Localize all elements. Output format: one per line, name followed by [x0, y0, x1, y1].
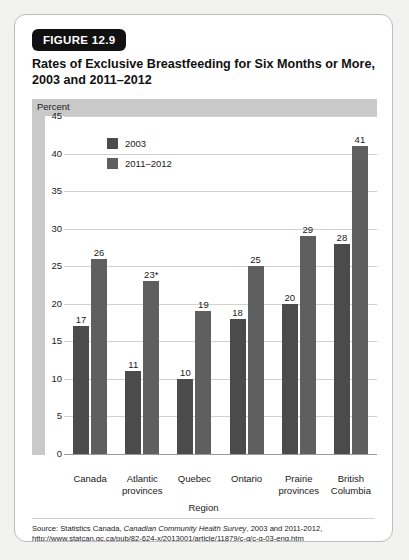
bar-value-label: 25 — [240, 254, 272, 265]
bar-value-label: 29 — [292, 224, 324, 235]
y-axis-tick-label: 15 — [45, 335, 62, 346]
percent-band: Percent — [32, 99, 377, 116]
legend-swatch — [107, 138, 118, 149]
y-axis-tick-label: 10 — [45, 373, 62, 384]
gridline — [64, 191, 377, 192]
gridline — [64, 416, 377, 417]
gridline — [64, 379, 377, 380]
gridline — [64, 304, 377, 305]
gridline — [64, 229, 377, 230]
x-axis-line — [64, 454, 377, 455]
bar — [300, 236, 316, 454]
y-axis-tick-label: 5 — [45, 410, 62, 421]
bar — [282, 304, 298, 454]
source-publication: Canadian Community Health Survey — [124, 524, 247, 533]
figure-card: FIGURE 12.9 Rates of Exclusive Breastfee… — [14, 14, 393, 542]
bar-value-label: 23* — [135, 269, 167, 280]
source-url: http://www.statcan.gc.ca/pub/82-624-x/20… — [32, 534, 304, 542]
left-margin-strip — [32, 116, 45, 455]
y-axis-tick-label: 20 — [45, 298, 62, 309]
x-axis-title: Region — [15, 502, 392, 513]
bar-value-label: 41 — [344, 134, 376, 145]
bar — [352, 146, 368, 454]
bar — [334, 244, 350, 454]
x-axis-category-labels: CanadaAtlanticprovincesQuebecOntarioPrai… — [47, 473, 377, 499]
gridline — [64, 266, 377, 267]
bar-chart: Percent 051015202530354045 17261123*1019… — [32, 99, 377, 469]
bar — [73, 326, 89, 454]
x-axis-category-label: BritishColumbia — [316, 473, 386, 496]
bar — [177, 379, 193, 454]
bar — [195, 311, 211, 454]
bar-value-label: 19 — [187, 299, 219, 310]
bar — [91, 259, 107, 454]
bar — [230, 319, 246, 454]
y-axis-tick-label: 40 — [45, 148, 62, 159]
legend-item: 2003 — [107, 138, 172, 149]
divider — [32, 518, 375, 519]
gridline — [64, 116, 377, 117]
legend: 20032011–2012 — [107, 138, 172, 178]
y-axis-tick-label: 45 — [45, 110, 62, 121]
bar — [248, 266, 264, 454]
bar-value-label: 26 — [83, 247, 115, 258]
y-axis-tick-label: 30 — [45, 223, 62, 234]
bar — [125, 371, 141, 454]
legend-item: 2011–2012 — [107, 158, 172, 169]
y-axis-tick-label: 25 — [45, 260, 62, 271]
bar — [143, 281, 159, 454]
legend-label: 2003 — [125, 138, 146, 149]
y-axis-tick-label: 35 — [45, 185, 62, 196]
source-note: Source: Statistics Canada, Canadian Comm… — [32, 524, 380, 542]
legend-swatch — [107, 158, 118, 169]
legend-label: 2011–2012 — [125, 158, 172, 169]
plot-area: 051015202530354045 17261123*101918252029… — [45, 116, 377, 455]
y-axis-tick-label: 0 — [45, 448, 62, 459]
figure-title: Rates of Exclusive Breastfeeding for Six… — [32, 57, 377, 88]
figure-number-badge: FIGURE 12.9 — [32, 29, 126, 51]
source-suffix: , 2003 and 2011-2012, — [246, 524, 322, 533]
gridline — [64, 341, 377, 342]
source-prefix: Source: Statistics Canada, — [32, 524, 124, 533]
